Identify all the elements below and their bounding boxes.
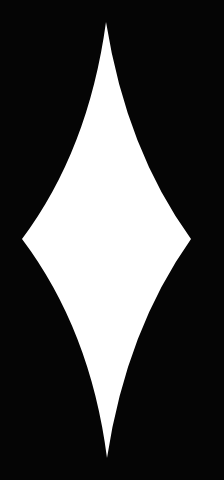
canvas [0, 0, 224, 480]
diamond-shape-icon [0, 0, 224, 480]
